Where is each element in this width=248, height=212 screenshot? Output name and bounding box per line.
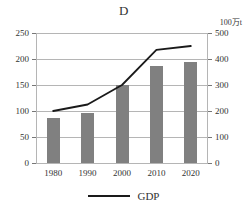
left-axis-tick [32,163,36,164]
right-axis-tick-label: 500 [215,28,229,38]
right-axis-tick [208,137,212,138]
right-axis-tick [208,59,212,60]
plot-area: 050100150200250 0100200300400500 1980199… [36,33,208,163]
right-axis-tick-label: 200 [215,106,229,116]
chart-figure: D 100万t 050100150200250 0100200300400500… [0,0,248,212]
right-axis-tick-label: 300 [215,80,229,90]
x-axis-tick-label: 1980 [44,168,62,178]
right-axis-tick [208,111,212,112]
right-axis-tick [208,85,212,86]
left-axis-tick-label: 0 [25,158,30,168]
legend-label-gdp: GDP [137,190,159,202]
right-axis-unit-label: 100万t [220,16,242,27]
x-axis-tick-label: 1990 [79,168,97,178]
right-axis-tick-label: 0 [215,158,220,168]
x-axis-tick-label: 2020 [182,168,200,178]
chart-legend: GDP [0,190,248,202]
chart-title: D [0,3,248,19]
left-axis-tick-label: 50 [20,132,29,142]
right-axis-tick [208,163,212,164]
gdp-line-path [53,46,191,111]
gridline [36,163,208,164]
gdp-line-series [36,33,208,163]
left-axis-tick-label: 100 [16,106,30,116]
right-axis-tick-label: 400 [215,54,229,64]
right-axis-tick-label: 100 [215,132,229,142]
left-axis-tick-label: 150 [16,80,30,90]
legend-line-swatch [88,195,130,197]
right-axis-tick [208,33,212,34]
left-axis-tick-label: 250 [16,28,30,38]
x-axis-tick-label: 2000 [113,168,131,178]
left-axis-tick-label: 200 [16,54,30,64]
x-axis-tick-label: 2010 [147,168,165,178]
